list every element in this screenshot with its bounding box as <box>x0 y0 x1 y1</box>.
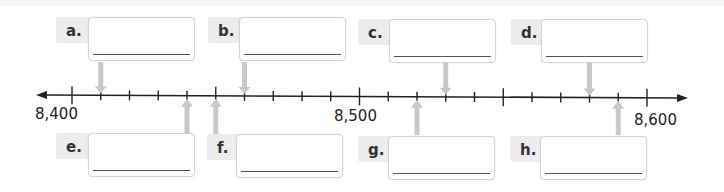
answer-line <box>241 171 338 172</box>
answer-box-f[interactable] <box>236 134 343 178</box>
label-d: d. <box>511 19 545 45</box>
label-h: h. <box>510 136 544 162</box>
pointer-arrow-shaft <box>443 62 448 89</box>
label-a: a. <box>56 17 90 43</box>
answer-line <box>394 56 491 57</box>
answer-line <box>244 54 341 55</box>
answer-box-g[interactable] <box>388 136 495 180</box>
answer-line <box>93 54 190 55</box>
pointer-arrow-shaft <box>242 62 247 88</box>
answer-box-d[interactable] <box>541 19 648 63</box>
right-arrowhead-icon <box>677 94 688 102</box>
pointer-arrow-down-icon <box>239 87 251 94</box>
label-g: g. <box>358 136 392 162</box>
label-8400: 8,400 <box>35 105 78 123</box>
pointer-arrow-down-icon <box>440 88 452 95</box>
label-8600: 8,600 <box>634 111 677 129</box>
pointer-arrow-shaft <box>415 107 420 135</box>
pointer-arrow-up-icon <box>411 100 423 108</box>
answer-box-e[interactable] <box>88 133 195 177</box>
answer-line <box>545 173 642 174</box>
pointer-arrow-shaft <box>616 108 621 135</box>
answer-box-h[interactable] <box>540 136 647 180</box>
answer-box-c[interactable] <box>389 19 496 63</box>
pointer-arrow-shaft <box>98 62 103 87</box>
answer-line <box>546 56 643 57</box>
pointer-arrow-up-icon <box>210 99 222 107</box>
pointer-arrow-shaft <box>587 62 592 90</box>
label-8500: 8,500 <box>334 107 377 125</box>
left-arrowhead-icon <box>36 91 47 99</box>
answer-box-a[interactable] <box>88 17 195 61</box>
pointer-arrow-up-icon <box>181 99 193 107</box>
answer-box-b[interactable] <box>239 17 346 61</box>
answer-line <box>393 173 490 174</box>
label-e: e. <box>56 133 90 159</box>
pointer-arrow-shaft <box>185 106 190 135</box>
axis-line <box>44 95 680 98</box>
pointer-arrow-shaft <box>213 106 218 135</box>
label-c: c. <box>358 19 392 45</box>
pointer-arrow-down-icon <box>584 89 596 96</box>
pointer-arrow-down-icon <box>95 86 107 93</box>
pointer-arrow-up-icon <box>612 101 624 109</box>
label-b: b. <box>208 17 242 43</box>
answer-line <box>93 170 190 171</box>
